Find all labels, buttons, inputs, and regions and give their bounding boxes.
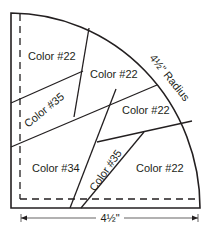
piece-label-bottom-left: Color #34 [32,162,80,174]
piece-label-top-left: Color #22 [28,50,76,62]
radius-label: 4½" Radius [147,52,192,104]
arrowhead-left-icon [21,216,27,221]
piece-label-strip-lower: Color #35 [87,147,124,193]
piece-label-top-middle: Color #22 [90,68,138,80]
quilt-block-diagram: Color #22 Color #22 Color #35 Color #22 … [0,0,213,231]
seam-line-1 [74,28,89,117]
piece-label-bottom-right: Color #22 [136,162,184,174]
width-dimension-label: 4½" [100,212,119,224]
arrowhead-right-icon [192,216,198,221]
seam-line-5 [97,121,192,142]
piece-label-strip-upper: Color #35 [22,90,67,129]
seam-line-2 [11,71,83,103]
piece-label-right-middle: Color #22 [122,104,170,116]
